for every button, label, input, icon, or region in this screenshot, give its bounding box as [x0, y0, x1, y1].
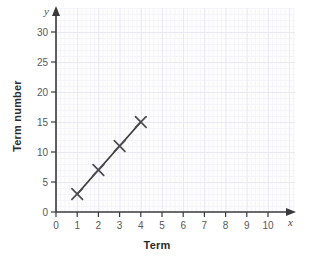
data-point-marker	[72, 189, 83, 200]
x-tick-label: 5	[159, 220, 165, 231]
data-point-marker	[93, 165, 104, 176]
x-axis	[56, 208, 296, 216]
x-axis-title: Term	[0, 239, 314, 251]
y-tick-label: 25	[28, 57, 48, 68]
x-tick-label: 0	[53, 220, 59, 231]
y-tick-label: 5	[34, 177, 48, 188]
y-tick-label: 0	[34, 207, 48, 218]
data-point-marker	[114, 141, 125, 152]
x-tick-label: 4	[138, 220, 144, 231]
x-tick-label: 9	[244, 220, 250, 231]
x-tick-label: 3	[117, 220, 123, 231]
y-tick-label: 10	[28, 147, 48, 158]
data-point-marker	[136, 117, 147, 128]
x-tick-label: 7	[202, 220, 208, 231]
y-axis-variable-label: y	[44, 5, 49, 17]
x-axis-variable-label: x	[288, 216, 293, 228]
chart-container: 0 5 10 15 20 25 30 0 1 2 3 4 5 6 7 8 9 1…	[0, 0, 314, 259]
x-tick-label: 2	[96, 220, 102, 231]
y-tick-label: 20	[28, 87, 48, 98]
y-axis	[52, 6, 60, 212]
x-tick-label: 8	[223, 220, 229, 231]
x-tick-label: 6	[180, 220, 186, 231]
x-tick-label: 10	[262, 220, 273, 231]
x-tick-label: 1	[74, 220, 80, 231]
data-series-line	[77, 122, 141, 194]
y-tick-label: 15	[28, 117, 48, 128]
y-axis-title: Term number	[11, 46, 23, 186]
y-tick-label: 30	[28, 27, 48, 38]
